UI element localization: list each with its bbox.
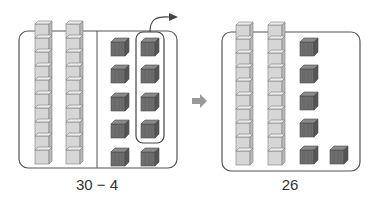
right-result-label: 26 [240,176,340,193]
right-arrow-icon [192,94,207,108]
remove-arrow-icon [150,17,170,32]
ten-rods-left [35,21,83,164]
left-panel [19,13,178,168]
right-panel [222,22,360,171]
unit-cubes-left [111,38,159,166]
ten-rods-right [236,22,285,165]
unit-cubes-right [300,38,348,164]
left-expression-label: 30 − 4 [47,176,147,193]
